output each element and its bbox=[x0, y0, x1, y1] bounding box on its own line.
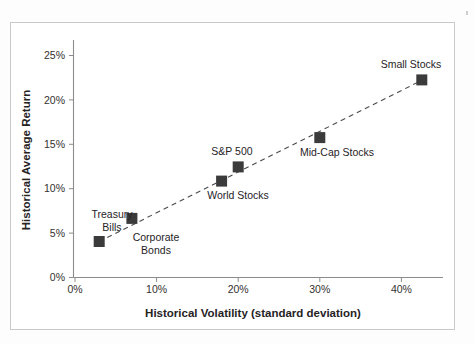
figure-page: 0% 5% 10% 15% 20% 25% 0% 10% 20% 30% 40%… bbox=[0, 0, 475, 344]
x-tick-label-10: 10% bbox=[146, 283, 167, 295]
x-tick-label-30: 30% bbox=[309, 283, 330, 295]
y-tick-label-10: 10% bbox=[44, 182, 65, 194]
y-tick-label-25: 25% bbox=[44, 49, 65, 61]
label-sp500: S&P 500 bbox=[211, 145, 252, 157]
scatter-plot: 0% 5% 10% 15% 20% 25% 0% 10% 20% 30% 40%… bbox=[0, 0, 475, 344]
chart-canvas: 0% 5% 10% 15% 20% 25% 0% 10% 20% 30% 40%… bbox=[0, 0, 475, 344]
label-midcap-stocks: Mid-Cap Stocks bbox=[300, 146, 374, 158]
x-tick-label-20: 20% bbox=[228, 283, 249, 295]
label-corporate-bonds-line2: Bonds bbox=[141, 244, 171, 256]
label-small-stocks: Small Stocks bbox=[381, 58, 442, 70]
marker-world-stocks[interactable] bbox=[216, 176, 227, 187]
x-tick-label-0: 0% bbox=[67, 283, 82, 295]
marker-midcap-stocks[interactable] bbox=[314, 132, 325, 143]
scan-artifact bbox=[466, 11, 468, 15]
marker-treasury-bills[interactable] bbox=[94, 236, 105, 247]
y-tick-label-20: 20% bbox=[44, 94, 65, 106]
trendline bbox=[99, 80, 422, 241]
marker-small-stocks[interactable] bbox=[416, 74, 427, 85]
label-treasury-bills-line1: Treasury bbox=[91, 208, 133, 220]
label-world-stocks: World Stocks bbox=[207, 189, 269, 201]
y-tick-label-15: 15% bbox=[44, 138, 65, 150]
y-axis-title: Historical Average Return bbox=[20, 90, 32, 230]
y-tick-label-0: 0% bbox=[50, 271, 65, 283]
marker-sp500[interactable] bbox=[233, 161, 244, 172]
label-corporate-bonds-line1: Corporate bbox=[133, 231, 180, 243]
x-tick-label-40: 40% bbox=[391, 283, 412, 295]
label-treasury-bills-line2: Bills bbox=[102, 221, 121, 233]
y-tick-label-5: 5% bbox=[50, 227, 65, 239]
x-axis-title: Historical Volatility (standard deviatio… bbox=[145, 307, 361, 319]
